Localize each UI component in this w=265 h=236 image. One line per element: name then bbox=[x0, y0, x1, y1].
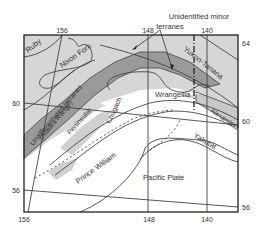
label-yakutat: Yakutat bbox=[192, 131, 219, 152]
tick-left-60: 60 bbox=[12, 100, 20, 107]
terrane-map: Unidentified minor terranes 156 148 140 … bbox=[0, 0, 265, 236]
label-wrangellia: Wrangellia bbox=[155, 90, 191, 99]
tick-top-156: 156 bbox=[56, 27, 68, 34]
tick-top-148: 148 bbox=[142, 27, 154, 34]
tick-top-140: 140 bbox=[201, 27, 213, 34]
tick-right-64: 64 bbox=[242, 40, 250, 47]
annotation-line-2: terranes bbox=[156, 22, 184, 31]
yakutat-boundary bbox=[140, 140, 238, 162]
tick-left-56: 56 bbox=[12, 187, 20, 194]
label-pacific-plate: Pacific Plate bbox=[143, 173, 184, 182]
tick-right-56: 56 bbox=[242, 204, 250, 211]
tick-right-60: 60 bbox=[242, 118, 250, 125]
tick-bottom-148: 148 bbox=[143, 216, 155, 223]
annotation-line-1: Unidentified minor bbox=[169, 12, 230, 21]
tick-bottom-140: 140 bbox=[201, 216, 213, 223]
dashed-boundary-2 bbox=[150, 120, 180, 150]
lat-56-line bbox=[24, 190, 238, 207]
tick-bottom-156: 156 bbox=[18, 216, 30, 223]
